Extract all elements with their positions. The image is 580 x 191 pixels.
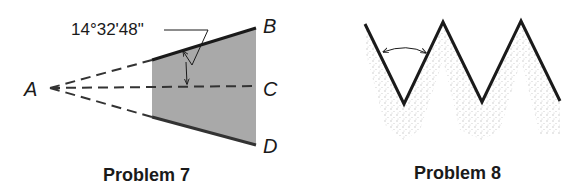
point-d-label: D bbox=[263, 135, 277, 157]
thread-angle-arc bbox=[383, 48, 426, 53]
problem-7-caption: Problem 7 bbox=[103, 165, 190, 185]
diagram-svg: 14°32'48" A B C D Problem 7 Problem 8 bbox=[0, 0, 580, 191]
point-c-label: C bbox=[263, 78, 278, 100]
dashed-line-ad bbox=[50, 88, 152, 117]
diagram-canvas: 14°32'48" A B C D Problem 7 Problem 8 bbox=[0, 0, 580, 191]
point-a-label: A bbox=[23, 78, 37, 100]
problem-8-caption: Problem 8 bbox=[414, 163, 501, 183]
problem-7-figure: 14°32'48" A B C D Problem 7 bbox=[23, 15, 278, 185]
angle-label: 14°32'48" bbox=[71, 20, 144, 39]
point-b-label: B bbox=[263, 15, 276, 37]
dashed-line-ab bbox=[50, 60, 152, 88]
problem-8-figure: Problem 8 bbox=[365, 21, 560, 183]
